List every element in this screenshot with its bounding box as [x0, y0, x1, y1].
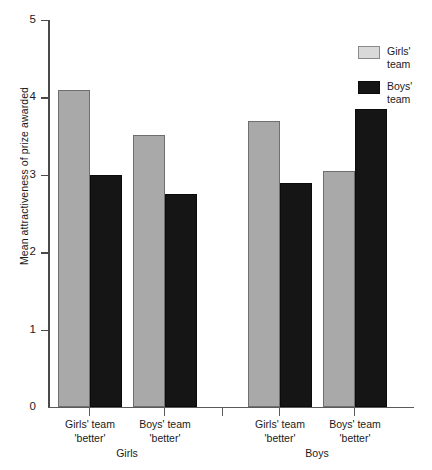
legend: Girls' team Boys' team: [358, 45, 432, 115]
y-tick-1: [41, 330, 49, 331]
legend-item-girls-team: Girls' team: [358, 45, 432, 71]
y-tick-label-0: 0: [8, 401, 36, 413]
legend-label-boys-team: Boys' team: [387, 80, 412, 106]
y-tick-2: [41, 252, 49, 253]
legend-label-boys-team-line1: Boys': [387, 80, 412, 92]
y-tick-3: [41, 175, 49, 176]
x-tick-1: [89, 408, 90, 416]
y-tick-label-2: 2: [8, 246, 36, 258]
x-category-label-4: Boys' team 'better': [295, 418, 415, 445]
x-tick-3: [279, 408, 280, 416]
bar-boys-team-boys-better-2: [355, 109, 387, 407]
x-tick-separator: [222, 408, 223, 416]
x-category-label-4-line2: 'better': [295, 432, 415, 446]
x-category-label-2: Boys' team 'better': [105, 418, 225, 445]
bar-girls-team-girls-better-2: [248, 121, 280, 407]
x-category-label-4-line1: Boys' team: [329, 418, 381, 430]
y-tick-4: [41, 97, 49, 98]
bar-boys-team-girls-better: [90, 175, 122, 407]
x-group-label-boys: Boys: [237, 447, 397, 459]
y-axis-line: [48, 20, 50, 408]
x-tick-4: [354, 408, 355, 416]
bar-boys-team-girls-better-2: [280, 183, 312, 408]
legend-label-girls-team-line2: team: [387, 58, 411, 71]
y-tick-label-1: 1: [8, 324, 36, 336]
legend-label-boys-team-line2: team: [387, 93, 412, 106]
x-category-label-2-line2: 'better': [105, 432, 225, 446]
legend-label-girls-team-line1: Girls': [387, 45, 411, 57]
y-tick-5: [41, 20, 49, 21]
legend-item-boys-team: Boys' team: [358, 80, 432, 106]
bar-girls-team-boys-better: [133, 135, 165, 407]
y-tick-label-3: 3: [8, 169, 36, 181]
x-group-label-girls: Girls: [47, 447, 207, 459]
y-tick-label-5: 5: [8, 14, 36, 26]
boys-swatch-icon: [358, 81, 380, 94]
bar-girls-team-girls-better: [58, 90, 90, 407]
x-axis-line: [48, 407, 414, 409]
bar-chart: Mean attractiveness of prize awarded 5 4…: [0, 0, 432, 470]
x-category-label-2-line1: Boys' team: [139, 418, 191, 430]
bar-girls-team-boys-better-2: [323, 171, 355, 407]
legend-label-girls-team: Girls' team: [387, 45, 411, 71]
x-tick-2: [164, 408, 165, 416]
girls-swatch-icon: [358, 46, 380, 59]
y-tick-label-4: 4: [8, 91, 36, 103]
bar-boys-team-boys-better: [165, 194, 197, 407]
